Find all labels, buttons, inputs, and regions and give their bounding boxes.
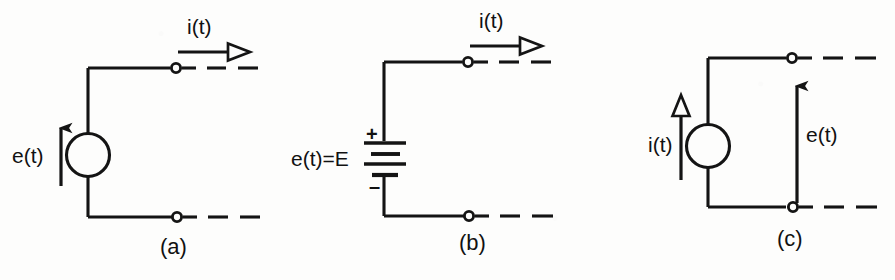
- panel-b-minus-sign: –: [369, 176, 380, 196]
- panel-a-current-label: i(t): [187, 16, 212, 37]
- figure-canvas: i(t) e(t) (a) i(t) e(t)=E + – (b) i(t) e…: [0, 0, 895, 280]
- panel-c-caption: (c): [777, 228, 803, 250]
- panel-c-bottom-terminal-node: [788, 202, 797, 211]
- panel-c-source-circle: [687, 125, 730, 168]
- panel-b-caption: (b): [459, 232, 486, 254]
- panel-a-source-circle: [67, 134, 110, 177]
- panel-b-bottom-terminal-node: [464, 211, 473, 220]
- panel-c-voltage-label: e(t): [806, 124, 838, 145]
- panel-a-top-terminal-node: [171, 63, 180, 72]
- panel-a-bottom-terminal-node: [172, 212, 181, 221]
- panel-b-current-label: i(t): [479, 10, 504, 31]
- circuit-artwork: [0, 0, 895, 280]
- panel-a-caption: (a): [160, 236, 187, 258]
- panel-b-circuit: [364, 46, 553, 221]
- panel-c-current-arrowhead: [673, 95, 690, 116]
- panel-c-top-terminal-node: [787, 53, 796, 62]
- panel-a-current-arrowhead: [228, 44, 250, 61]
- panel-a-voltage-label: e(t): [12, 145, 44, 166]
- panel-b-top-terminal-node: [463, 57, 472, 66]
- panel-b-voltage-label: e(t)=E: [291, 148, 349, 169]
- panel-a-circuit: [61, 52, 260, 222]
- panel-b-current-arrowhead: [520, 38, 542, 55]
- panel-b-plus-sign: +: [366, 124, 378, 144]
- panel-c-circuit: [681, 53, 877, 211]
- panel-c-current-label: i(t): [648, 134, 673, 155]
